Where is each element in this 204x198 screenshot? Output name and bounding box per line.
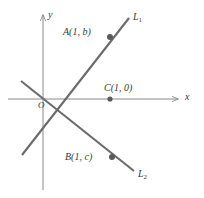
- y-axis-label: y: [48, 10, 52, 20]
- point-A-marker: [107, 34, 113, 40]
- origin-label: O: [38, 101, 45, 110]
- line-L1-label-subscript: 1: [139, 16, 143, 24]
- diagram-canvas: [0, 0, 204, 198]
- point-C-marker: [107, 96, 112, 101]
- line-L1-label: L1: [133, 12, 142, 22]
- point-B-marker: [109, 154, 115, 160]
- point-B-label: B(1, c): [65, 152, 92, 162]
- x-axis-label: x: [185, 92, 189, 102]
- line-L2-label: L2: [138, 169, 147, 179]
- point-C-label: C(1, 0): [104, 83, 132, 93]
- line-L2-label-subscript: 2: [144, 173, 148, 181]
- line-L1-label-text: L: [133, 11, 139, 22]
- line-L2-label-text: L: [138, 168, 144, 179]
- point-A-label: A(1, b): [63, 27, 91, 37]
- coordinate-diagram: y x O L1 L2 A(1, b) C(1, 0) B(1, c): [0, 0, 204, 198]
